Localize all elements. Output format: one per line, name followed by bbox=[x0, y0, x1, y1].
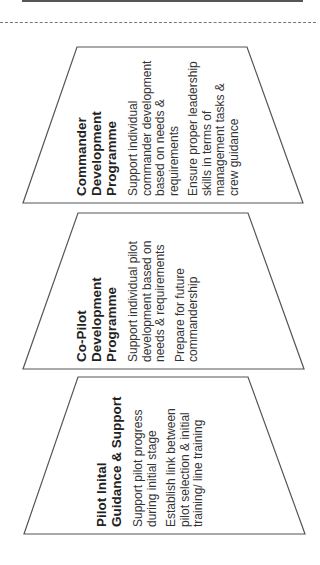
bullet-line: commander development bbox=[141, 56, 155, 196]
stage-title: Co-Pilot Development Programme bbox=[74, 222, 119, 362]
stage-bullet: Support pilot progress during initial st… bbox=[132, 387, 159, 527]
bullet-line: management tasks & bbox=[214, 56, 228, 196]
bullet-line: during initial stage bbox=[146, 387, 160, 527]
stage-title: Commander Development Programme bbox=[74, 56, 119, 196]
title-line: Co-Pilot bbox=[74, 222, 89, 362]
bullet-line: Support individual pilot bbox=[127, 222, 141, 362]
stage-bullet: Establish link between pilot selection &… bbox=[165, 387, 206, 527]
title-line: Programme bbox=[104, 56, 119, 196]
bullet-line: requirements bbox=[168, 56, 182, 196]
title-line: Programme bbox=[104, 222, 119, 362]
title-line: Development bbox=[89, 222, 104, 362]
bullet-line: pilot selection & initial bbox=[179, 387, 193, 527]
bullet-line: Establish link between bbox=[165, 387, 179, 527]
bullet-line: needs & requirements bbox=[154, 222, 168, 362]
bullet-line: Prepare for future bbox=[174, 222, 188, 362]
stage-title: Pilot Inital Guidance & Support bbox=[94, 387, 124, 527]
bullet-line: based on needs & bbox=[154, 56, 168, 196]
bullet-line: Support individual bbox=[127, 56, 141, 196]
stage-bullet: Prepare for future commandership bbox=[174, 222, 201, 362]
stage-bullet: Ensure proper leadership skills in terms… bbox=[187, 56, 241, 196]
bullet-line: commandership bbox=[187, 222, 201, 362]
title-line: Pilot Inital bbox=[94, 387, 109, 527]
pilot-stage: Pilot Inital Guidance & Support Support … bbox=[94, 387, 212, 527]
bullet-line: development based on bbox=[141, 222, 155, 362]
commander-stage: Commander Development Programme Support … bbox=[74, 56, 247, 196]
copilot-stage: Co-Pilot Development Programme Support i… bbox=[74, 222, 207, 362]
title-line: Commander bbox=[74, 56, 89, 196]
stage-bullet: Support individual commander development… bbox=[127, 56, 181, 196]
bullet-line: crew guidance bbox=[228, 56, 242, 196]
title-line: Development bbox=[89, 56, 104, 196]
bullet-line: Ensure proper leadership bbox=[187, 56, 201, 196]
bullet-line: Support pilot progress bbox=[132, 387, 146, 527]
bullet-line: skills in terms of bbox=[201, 56, 215, 196]
bullet-line: training/ line training bbox=[192, 387, 206, 527]
title-line: Guidance & Support bbox=[109, 387, 124, 527]
stage-bullet: Support individual pilot development bas… bbox=[127, 222, 168, 362]
